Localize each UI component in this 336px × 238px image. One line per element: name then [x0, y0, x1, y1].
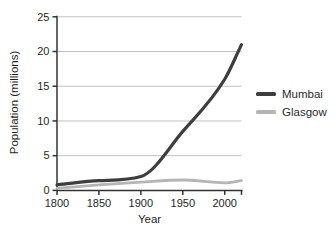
y-axis-title: Population (millions): [7, 23, 22, 183]
legend-item-glasgow: Glasgow: [256, 103, 327, 121]
svg-text:20: 20: [37, 45, 49, 57]
svg-text:10: 10: [37, 115, 49, 127]
svg-text:1850: 1850: [87, 197, 111, 209]
gridlines: [57, 17, 242, 156]
legend-label-mumbai: Mumbai: [282, 88, 323, 100]
population-chart: Population (millions) 051015202518001850…: [0, 0, 336, 238]
svg-text:2000: 2000: [212, 197, 236, 209]
mumbai-line-swatch: [256, 92, 276, 96]
svg-text:15: 15: [37, 80, 49, 92]
glasgow-line-swatch: [256, 110, 276, 114]
svg-text:1800: 1800: [45, 197, 69, 209]
svg-text:5: 5: [43, 149, 49, 161]
y-tick-labels: 0510152025: [37, 11, 49, 197]
x-tick-labels: 18001850190019502000: [45, 197, 237, 209]
series-line-mumbai: [57, 45, 242, 185]
chart-legend: Mumbai Glasgow: [256, 85, 327, 121]
x-axis-title: Year: [57, 213, 242, 227]
axes: [53, 16, 243, 195]
legend-label-glasgow: Glasgow: [282, 106, 327, 118]
svg-text:1950: 1950: [171, 197, 195, 209]
svg-text:0: 0: [43, 184, 49, 196]
legend-item-mumbai: Mumbai: [256, 85, 327, 103]
svg-text:1900: 1900: [129, 197, 153, 209]
svg-text:25: 25: [37, 11, 49, 23]
